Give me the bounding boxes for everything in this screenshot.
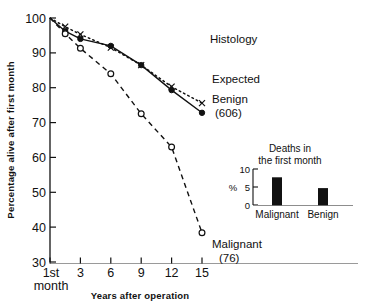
x-tick-label-6: 6 [107,266,114,280]
y-tick-label-60: 60 [32,151,46,165]
legend-title-histology: Histology [210,33,258,45]
series-label-malignant: Malignant [212,238,263,250]
series-label-expected: Expected [212,73,260,85]
y-tick-label-100: 100 [25,12,46,26]
inset-bar-malignant [272,177,282,205]
series-label-benign: Benign [212,93,248,105]
series-malignant [50,18,205,236]
inset-y-label-10: 10 [239,164,250,175]
x-tick-label-12: 12 [165,266,179,280]
series-benign [50,18,205,116]
y-tick-label-70: 70 [32,116,46,130]
y-axis-title: Percentage alive after first month [5,61,16,218]
malignant-line [50,18,202,233]
y-tick-label-50: 50 [32,186,46,200]
malignant-markers [62,31,205,236]
x-tick-label-9: 9 [138,266,145,280]
benign-line [50,18,202,113]
benign-markers [62,29,204,116]
x-tick-label-3: 3 [77,266,84,280]
series-count-benign: (606) [215,107,242,119]
survival-curve-figure: 100 90 80 70 60 50 40 30 Percentage aliv… [0,0,365,307]
inset-y-label-5: 5 [245,182,250,193]
inset-y-axis-title: % [229,182,238,193]
inset-bar-benign [318,188,328,205]
series-count-malignant: (76) [219,252,240,264]
inset-bar-chart: Deaths in the first month 10 5 0 % Malig… [229,143,353,220]
x-axis: 1st month 3 6 9 12 15 Years after operat… [34,258,358,302]
y-tick-label-80: 80 [32,81,46,95]
x-tick-label-first-month-line1: 1st [43,266,60,280]
inset-y-label-0: 0 [245,200,250,211]
inset-category-malignant: Malignant [255,209,299,220]
x-tick-label-first-month-line2: month [34,279,69,293]
legend: Histology Expected Benign (606) Malignan… [210,33,263,264]
x-tick-label-15: 15 [195,266,209,280]
inset-title-line1: Deaths in [269,143,311,154]
y-tick-label-90: 90 [32,46,46,60]
series-expected [50,18,205,106]
chart-canvas: 100 90 80 70 60 50 40 30 Percentage aliv… [0,0,365,307]
y-axis: 100 90 80 70 60 50 40 30 Percentage aliv… [5,12,56,270]
inset-title-line2: the first month [258,155,321,166]
inset-category-benign: Benign [307,209,338,220]
y-tick-label-40: 40 [32,221,46,235]
expected-line [50,18,202,103]
x-axis-title: Years after operation [91,290,190,301]
